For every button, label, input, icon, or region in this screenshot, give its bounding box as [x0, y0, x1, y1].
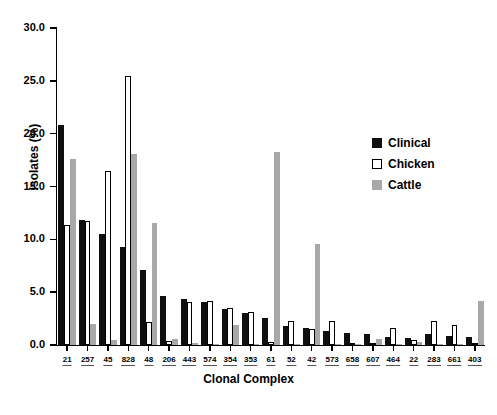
x-axis-label-rule: [81, 365, 95, 366]
x-axis-tick-label: 574: [203, 355, 216, 364]
bar-cattle-206: [172, 339, 178, 345]
bar-cattle-607: [376, 339, 382, 345]
x-axis-label-rule: [325, 365, 339, 366]
x-axis-tick-label: 206: [162, 355, 175, 364]
legend-item-chicken: Chicken: [372, 153, 482, 174]
legend-item-clinical: Clinical: [372, 132, 482, 153]
x-axis-tick: [230, 346, 231, 351]
x-axis-tick: [331, 346, 332, 351]
x-axis-label-rule: [183, 365, 197, 366]
x-axis-label-rule: [427, 365, 441, 366]
x-axis-title: Clonal Complex: [0, 372, 497, 386]
x-axis-tick-label: 354: [224, 355, 237, 364]
bar-cattle-443: [192, 343, 198, 345]
y-axis-tick-label: 30.0: [0, 21, 45, 33]
bar-chicken-283: [431, 321, 437, 345]
bar-cattle-464: [396, 344, 402, 345]
x-axis-tick-label: 658: [346, 355, 359, 364]
x-axis-label-rule: [223, 365, 237, 366]
bar-chicken-661: [452, 325, 458, 345]
x-axis-tick: [311, 346, 312, 351]
x-axis-label-rule: [203, 365, 217, 366]
x-axis-label-rule: [63, 365, 72, 366]
y-axis-tick: [50, 133, 57, 134]
legend-swatch-clinical-icon: [372, 138, 382, 148]
y-axis-tick: [50, 344, 57, 345]
bar-chicken-573: [329, 321, 335, 345]
y-axis-tick: [50, 291, 57, 292]
y-axis-tick-label: 25.0: [0, 74, 45, 86]
x-axis-tick-label: 573: [325, 355, 338, 364]
bar-clinical-206: [160, 296, 166, 345]
x-axis-label-rule: [144, 365, 153, 366]
bar-cattle-661: [457, 344, 463, 345]
chart-legend: Clinical Chicken Cattle: [372, 132, 482, 195]
bar-cattle-353: [254, 344, 260, 345]
y-axis-tick: [50, 186, 57, 187]
bar-chicken-574: [207, 301, 213, 345]
bar-chicken-45: [105, 171, 111, 345]
x-axis-label-rule: [287, 365, 296, 366]
x-axis-label-rule: [409, 365, 418, 366]
x-axis-tick-label: 22: [409, 355, 418, 364]
bar-cattle-52: [294, 344, 300, 345]
bar-cattle-61: [274, 152, 280, 345]
x-axis-tick-label: 48: [144, 355, 153, 364]
y-axis-tick: [50, 239, 57, 240]
x-axis-tick: [372, 346, 373, 351]
bar-cattle-658: [355, 344, 361, 345]
bar-cattle-283: [437, 344, 443, 345]
legend-item-cattle: Cattle: [372, 174, 482, 195]
x-axis-tick-label: 257: [81, 355, 94, 364]
x-axis-tick: [454, 346, 455, 351]
bar-chicken-52: [288, 321, 294, 345]
x-axis-tick-label: 52: [287, 355, 296, 364]
bar-chicken-443: [187, 302, 193, 345]
x-axis-label-rule: [244, 365, 258, 366]
x-axis-label-rule: [103, 365, 112, 366]
bar-cattle-45: [111, 340, 117, 345]
x-axis-tick: [352, 346, 353, 351]
x-axis-tick-label: 42: [307, 355, 316, 364]
x-axis-tick-label: 45: [103, 355, 112, 364]
bar-cattle-42: [315, 244, 321, 345]
x-axis-tick-label: 283: [427, 355, 440, 364]
bar-cattle-573: [335, 344, 341, 345]
x-axis-label-rule: [386, 365, 400, 366]
legend-label-chicken: Chicken: [388, 157, 435, 171]
x-axis-label-rule: [448, 365, 462, 366]
x-axis-tick-label: 403: [468, 355, 481, 364]
x-axis-tick: [270, 346, 271, 351]
x-axis-tick: [433, 346, 434, 351]
x-axis-tick: [250, 346, 251, 351]
x-axis-tick-label: 353: [244, 355, 257, 364]
bar-chicken-353: [248, 312, 254, 345]
x-axis-tick: [474, 346, 475, 351]
x-axis-tick-label: 828: [122, 355, 135, 364]
y-axis-tick-label: 10.0: [0, 232, 45, 244]
bar-cattle-403: [478, 301, 484, 345]
y-axis-title: Isolates (%): [27, 77, 41, 237]
legend-label-clinical: Clinical: [388, 136, 431, 150]
x-axis-tick: [128, 346, 129, 351]
y-axis-tick: [50, 27, 57, 28]
x-axis-tick: [393, 346, 394, 351]
x-axis-tick-label: 464: [387, 355, 400, 364]
bar-cattle-48: [152, 223, 158, 345]
x-axis-tick-label: 443: [183, 355, 196, 364]
y-axis-tick-label: 15.0: [0, 180, 45, 192]
x-axis-tick: [291, 346, 292, 351]
x-axis-tick: [87, 346, 88, 351]
x-axis-label-rule: [468, 365, 482, 366]
bar-cattle-354: [233, 325, 239, 345]
x-axis-tick: [413, 346, 414, 351]
x-axis-tick: [168, 346, 169, 351]
x-axis-label-rule: [121, 365, 135, 366]
x-axis-tick-label: 661: [448, 355, 461, 364]
x-axis-tick-label: 21: [63, 355, 72, 364]
x-axis-tick: [148, 346, 149, 351]
bar-chicken-464: [390, 328, 396, 345]
x-axis-tick: [107, 346, 108, 351]
x-axis-tick-label: 61: [267, 355, 276, 364]
x-axis-tick: [209, 346, 210, 351]
